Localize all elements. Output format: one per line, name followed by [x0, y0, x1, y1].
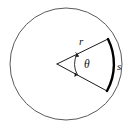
- radius-label: r: [79, 36, 83, 47]
- circle-outline: [10, 8, 122, 120]
- bold-arc: [107, 39, 114, 91]
- angle-arc-marker: [75, 54, 78, 75]
- figure-container: r θ s: [0, 0, 132, 127]
- circle-sector-figure: [0, 0, 132, 127]
- arc-length-label: s: [117, 61, 121, 72]
- radius-line-lower: [57, 64, 107, 91]
- angle-label: θ: [84, 59, 90, 71]
